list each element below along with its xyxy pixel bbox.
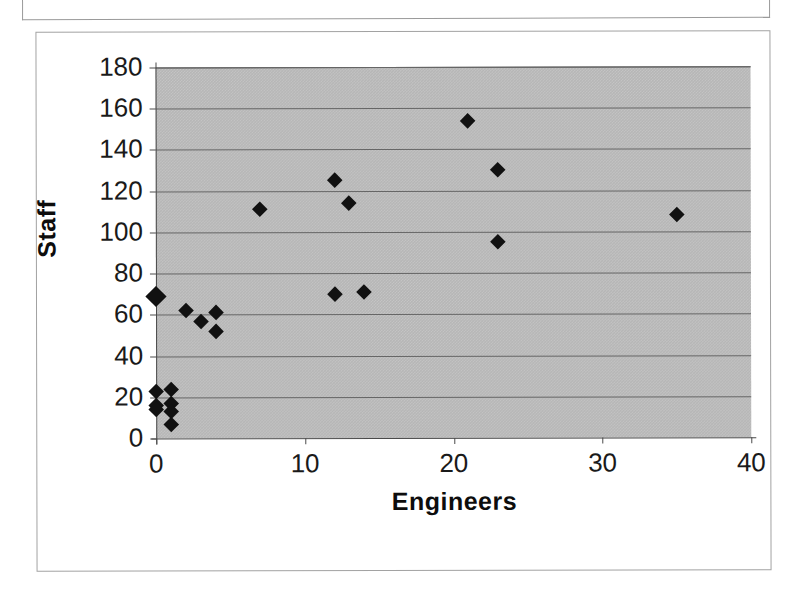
gridline-y-160 [156, 107, 751, 109]
data-point-marker [208, 305, 224, 321]
data-point-marker [145, 286, 166, 307]
x-axis-tick-labels: 010203040 [36, 31, 769, 33]
y-tick-label-text: 140 [99, 134, 142, 165]
y-tick-160 [150, 109, 156, 110]
x-tick-30 [603, 438, 604, 444]
plot-area [156, 66, 752, 438]
y-tick-label-text: 0 [129, 423, 144, 454]
x-tick-label-20: 20 [439, 448, 468, 479]
y-tick-140 [150, 150, 156, 151]
y-axis-tick-labels: 020406080100120140160180 [36, 31, 769, 33]
gridline-y-20 [156, 396, 751, 398]
y-tick-120 [150, 191, 156, 192]
x-axis-title: Engineers [392, 487, 517, 516]
x-axis-ticks-group [36, 31, 769, 33]
x-tick-label-30: 30 [588, 448, 617, 479]
gridline-y-40 [156, 355, 751, 357]
y-tick-60 [150, 315, 156, 316]
gridlines-group [156, 66, 751, 67]
y-tick-label-text: 80 [114, 258, 143, 289]
gridline-y-140 [156, 149, 751, 151]
data-point-marker [460, 113, 476, 129]
data-point-marker [490, 162, 506, 178]
gridline-y-60 [156, 314, 751, 316]
data-point-marker [327, 286, 343, 302]
data-point-marker [163, 381, 179, 397]
gridline-y-100 [156, 231, 751, 233]
y-tick-label-text: 40 [114, 340, 143, 371]
gridline-y-80 [156, 272, 751, 274]
x-tick-20 [454, 438, 455, 444]
y-tick-label-text: 160 [99, 93, 142, 124]
y-axis-ticks-group [36, 31, 769, 33]
data-point-marker [208, 323, 224, 339]
x-tick-40 [751, 437, 752, 443]
data-point-marker [356, 284, 372, 300]
y-axis-title: Staff [32, 200, 61, 258]
data-point-marker [669, 207, 685, 223]
data-point-marker [490, 234, 506, 250]
data-point-marker [252, 202, 268, 218]
y-tick-label-text: 120 [99, 175, 142, 206]
gridline-y-120 [156, 190, 751, 192]
scan-top-frame-artifact [22, 0, 770, 20]
data-point-marker [326, 173, 342, 189]
gridline-y-180 [156, 66, 751, 68]
y-tick-label-text: 180 [99, 52, 142, 83]
data-point-marker [341, 195, 357, 211]
data-point-marker [178, 303, 194, 319]
data-point-marker [163, 416, 179, 432]
y-tick-80 [150, 274, 156, 275]
y-tick-40 [150, 356, 156, 357]
y-tick-label-text: 20 [114, 381, 143, 412]
x-tick-label-40: 40 [737, 447, 766, 478]
y-tick-label-text: 60 [114, 299, 143, 330]
y-tick-label-text: 100 [99, 216, 142, 247]
x-tick-0 [156, 439, 157, 445]
x-tick-10 [305, 438, 306, 444]
x-tick-label-0: 0 [149, 449, 164, 480]
chart-container: 020406080100120140160180 010203040 Staff… [35, 30, 771, 572]
y-tick-180 [150, 68, 156, 69]
x-tick-label-10: 10 [291, 448, 320, 479]
y-tick-100 [150, 232, 156, 233]
